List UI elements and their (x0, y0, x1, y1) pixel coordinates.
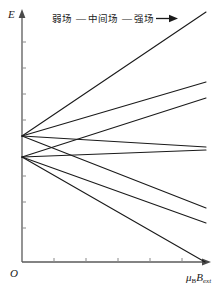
x-axis-label: μBBext (185, 271, 212, 285)
energy-level-plot: E O μBBext 弱场 — 中间场 — 强场 (0, 0, 223, 285)
lower-branch-3 (22, 157, 206, 223)
upper-branch-3 (22, 136, 206, 147)
annotation-intermediate-field: 中间场 (88, 13, 118, 24)
annotation-strong-field: 强场 (134, 13, 154, 24)
x-axis (22, 258, 211, 265)
lower-branch-4 (22, 157, 205, 262)
annotation-weak-field: 弱场 (52, 13, 72, 24)
x-axis-arrowhead (202, 259, 211, 266)
lower-branch-2 (22, 150, 206, 157)
y-axis-arrowhead (19, 9, 26, 18)
lower-level-branches (22, 98, 206, 262)
zeeman-diagram-figure: E O μBBext 弱场 — 中间场 — 强场 (0, 0, 223, 285)
upper-branch-4 (22, 136, 206, 208)
annotation-arrow-icon (156, 15, 178, 22)
annotation-dash-1: — (75, 13, 87, 24)
upper-branch-1 (22, 12, 206, 136)
svg-text:μBBext: μBBext (185, 271, 212, 285)
upper-level-branches (22, 12, 206, 208)
x-label-b-sub: ext (203, 277, 212, 285)
field-regime-annotation: 弱场 — 中间场 — 强场 (52, 13, 178, 24)
annotation-dash-2: — (121, 13, 133, 24)
origin-label: O (10, 267, 18, 279)
y-axis-label: E (7, 8, 15, 20)
